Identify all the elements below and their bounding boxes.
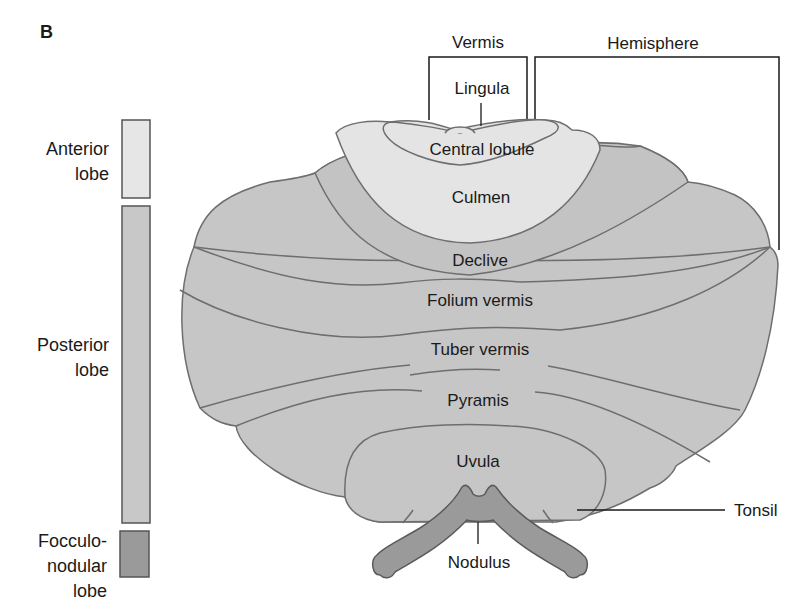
label-culmen: Culmen <box>452 188 511 207</box>
legend-label-anterior-2: lobe <box>75 164 109 184</box>
legend-label-posterior-2: lobe <box>75 360 109 380</box>
legend-label-anterior-1: Anterior <box>46 139 109 159</box>
label-tuber-vermis: Tuber vermis <box>431 340 530 359</box>
legend-label-posterior-1: Posterior <box>37 335 109 355</box>
cerebellum-diagram: Anterior lobe Posterior lobe Focculo- no… <box>0 0 809 611</box>
label-tonsil: Tonsil <box>734 501 777 520</box>
label-lingula: Lingula <box>455 79 510 98</box>
label-folium-vermis: Folium vermis <box>427 291 533 310</box>
legend-bar-flocculonodular <box>120 531 149 577</box>
legend-label-flocculonodular-2: nodular <box>47 556 107 576</box>
legend-label-flocculonodular-3: lobe <box>73 581 107 601</box>
hemisphere-label: Hemisphere <box>607 34 699 53</box>
label-uvula: Uvula <box>456 452 500 471</box>
label-declive: Declive <box>452 251 508 270</box>
label-nodulus: Nodulus <box>448 553 510 572</box>
legend-bar-posterior <box>122 206 150 523</box>
legend-label-flocculonodular-1: Focculo- <box>38 531 107 551</box>
label-central-lobule: Central lobule <box>430 140 535 159</box>
lobe-legend: Anterior lobe Posterior lobe Focculo- no… <box>37 120 150 601</box>
vermis-label: Vermis <box>452 33 504 52</box>
legend-bar-anterior <box>122 120 150 198</box>
label-pyramis: Pyramis <box>447 391 508 410</box>
